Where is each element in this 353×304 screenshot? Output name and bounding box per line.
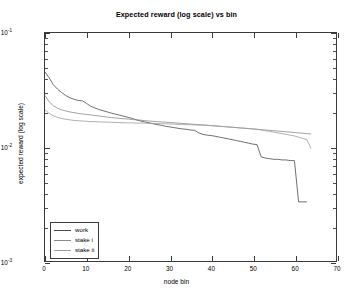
y-axis-minor-tick bbox=[333, 93, 336, 94]
legend-label: stake i bbox=[75, 237, 93, 243]
legend-label: stake ii bbox=[75, 247, 94, 253]
y-axis-minor-tick bbox=[333, 174, 336, 175]
y-axis-minor-tick bbox=[333, 228, 336, 229]
y-axis-tick bbox=[331, 148, 336, 149]
x-axis-tick bbox=[129, 33, 130, 38]
x-axis-tick bbox=[129, 256, 130, 261]
y-axis-label: expected reward (log scale) bbox=[17, 84, 24, 204]
y-axis-minor-tick bbox=[45, 113, 48, 114]
legend-color-swatch bbox=[54, 230, 71, 231]
y-axis-minor-tick bbox=[45, 159, 48, 160]
y-axis-minor-tick bbox=[333, 51, 336, 52]
y-axis-minor-tick bbox=[45, 51, 48, 52]
x-axis-tick bbox=[87, 33, 88, 38]
y-axis-minor-tick bbox=[45, 183, 48, 184]
x-axis-tick bbox=[171, 256, 172, 261]
y-axis-minor-tick bbox=[45, 79, 48, 80]
y-axis-minor-tick bbox=[45, 208, 48, 209]
y-axis-minor-tick bbox=[45, 174, 48, 175]
y-axis-minor-tick bbox=[45, 228, 48, 229]
y-axis-minor-tick bbox=[333, 59, 336, 60]
x-axis-tick bbox=[254, 256, 255, 261]
x-tick-label: 60 bbox=[292, 265, 299, 272]
y-axis-minor-tick bbox=[333, 79, 336, 80]
chart-title: Expected reward (log scale) vs bin bbox=[0, 10, 353, 19]
x-axis-tick bbox=[171, 33, 172, 38]
x-axis-label: node bin bbox=[0, 278, 353, 285]
x-axis-tick bbox=[45, 256, 46, 261]
y-axis-minor-tick bbox=[45, 153, 48, 154]
x-tick-label: 40 bbox=[208, 265, 215, 272]
legend-color-swatch bbox=[54, 250, 71, 251]
y-axis-minor-tick bbox=[333, 166, 336, 167]
legend-item-work[interactable]: work bbox=[54, 226, 94, 236]
legend-label: work bbox=[75, 227, 88, 233]
series-line-stake-ii bbox=[45, 110, 311, 149]
figure-canvas: Expected reward (log scale) vs bin expec… bbox=[0, 0, 353, 304]
y-axis-minor-tick bbox=[45, 38, 48, 39]
y-axis-minor-tick bbox=[45, 93, 48, 94]
x-axis-tick bbox=[254, 33, 255, 38]
legend-color-swatch bbox=[54, 240, 71, 241]
legend-item-stake-i[interactable]: stake i bbox=[54, 236, 94, 246]
x-axis-tick bbox=[338, 33, 339, 38]
y-axis-minor-tick bbox=[333, 183, 336, 184]
legend-item-stake-ii[interactable]: stake ii bbox=[54, 246, 94, 256]
x-tick-label: 30 bbox=[166, 265, 173, 272]
x-axis-tick bbox=[338, 256, 339, 261]
chart-legend[interactable]: workstake istake ii bbox=[50, 222, 99, 259]
x-tick-label: 50 bbox=[250, 265, 257, 272]
y-axis-minor-tick bbox=[45, 194, 48, 195]
x-axis-tick bbox=[212, 256, 213, 261]
x-axis-tick bbox=[296, 256, 297, 261]
y-axis-minor-tick bbox=[45, 44, 48, 45]
x-tick-label: 70 bbox=[333, 265, 340, 272]
x-tick-label: 10 bbox=[82, 265, 89, 272]
y-axis-tick bbox=[331, 263, 336, 264]
y-axis-minor-tick bbox=[333, 113, 336, 114]
y-axis-tick bbox=[331, 33, 336, 34]
x-axis-tick bbox=[45, 33, 46, 38]
y-axis-minor-tick bbox=[45, 68, 48, 69]
y-axis-minor-tick bbox=[333, 38, 336, 39]
y-axis-minor-tick bbox=[333, 208, 336, 209]
x-axis-tick bbox=[212, 33, 213, 38]
y-axis-minor-tick bbox=[333, 159, 336, 160]
y-axis-tick bbox=[45, 263, 50, 264]
series-line-work bbox=[45, 72, 307, 202]
y-axis-tick bbox=[45, 148, 50, 149]
y-axis-minor-tick bbox=[333, 153, 336, 154]
y-axis-minor-tick bbox=[333, 194, 336, 195]
x-tick-label: 20 bbox=[124, 265, 131, 272]
x-axis-tick bbox=[296, 33, 297, 38]
y-axis-minor-tick bbox=[333, 44, 336, 45]
y-axis-minor-tick bbox=[45, 166, 48, 167]
y-axis-minor-tick bbox=[45, 59, 48, 60]
x-tick-label: 0 bbox=[42, 265, 46, 272]
y-axis-minor-tick bbox=[333, 68, 336, 69]
